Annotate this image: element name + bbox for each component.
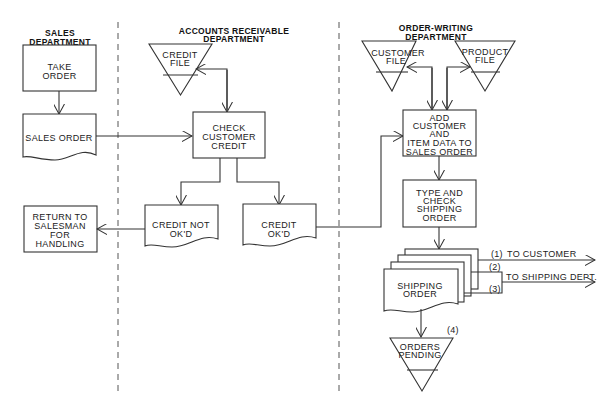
sales-order-document: SALES ORDER [23, 114, 96, 160]
copy-1-label: (1) [491, 249, 503, 259]
svg-text:FILE: FILE [170, 58, 190, 68]
take-order-process: TAKE ORDER [23, 45, 96, 91]
arrow-check-to-ok [237, 158, 279, 205]
svg-text:OK'D: OK'D [268, 229, 291, 239]
svg-text:ORDER: ORDER [422, 213, 456, 223]
ar-department-header: ACCOUNTS RECEIVABLE DEPARTMENT [179, 26, 289, 44]
type-check-shipping-order-process: TYPE AND CHECK SHIPPING ORDER [403, 180, 476, 227]
copy-2-label: (2) [489, 262, 501, 272]
arrow-add-to-product-file [447, 67, 470, 110]
svg-text:CREDIT: CREDIT [211, 141, 247, 151]
svg-text:SALES ORDER: SALES ORDER [406, 147, 474, 157]
return-to-salesman-process: RETURN TO SALESMAN FOR HANDLING [24, 206, 97, 252]
check-customer-credit-process: CHECK CUSTOMER CREDIT [193, 112, 265, 158]
to-shipping-dept-label: TO SHIPPING DEPT. [506, 272, 597, 282]
order-writing-department-header: ORDER-WRITING DEPARTMENT [399, 23, 473, 42]
svg-text:SALES ORDER: SALES ORDER [25, 133, 93, 143]
credit-not-ok-document: CREDIT NOT OK'D [145, 205, 218, 247]
arrow-check-to-not-ok [181, 158, 220, 205]
customer-file-storage: CUSTOMER FILE [362, 41, 425, 91]
svg-text:DEPARTMENT: DEPARTMENT [203, 34, 265, 44]
add-customer-item-data-process: ADD CUSTOMER AND ITEM DATA TO SALES ORDE… [403, 110, 476, 157]
arrow-check-to-credit-file [196, 69, 227, 110]
svg-text:ORDER: ORDER [42, 71, 76, 81]
copy-3-label: (3) [489, 284, 501, 294]
svg-text:HANDLING: HANDLING [36, 239, 85, 249]
flowchart-canvas: SALES DEPARTMENT ACCOUNTS RECEIVABLE DEP… [0, 0, 616, 414]
to-customer-label: TO CUSTOMER [507, 249, 577, 259]
copy-4-label: (4) [447, 325, 459, 335]
svg-text:FILE: FILE [475, 55, 495, 65]
credit-ok-document: CREDIT OK'D [243, 204, 316, 246]
arrow-ok-to-add-data [316, 136, 403, 227]
svg-text:PENDING: PENDING [398, 350, 441, 360]
arrow-add-to-customer-file [407, 67, 432, 108]
svg-text:FILE: FILE [386, 56, 406, 66]
svg-text:OK'D: OK'D [170, 229, 193, 239]
orders-pending-storage: ORDERS PENDING [390, 338, 453, 391]
shipping-order-multicopy-document: SHIPPING ORDER [384, 249, 478, 312]
svg-text:ORDER: ORDER [403, 289, 437, 299]
sales-department-header: SALES DEPARTMENT [29, 28, 91, 47]
product-file-storage: PRODUCT FILE [455, 41, 515, 91]
